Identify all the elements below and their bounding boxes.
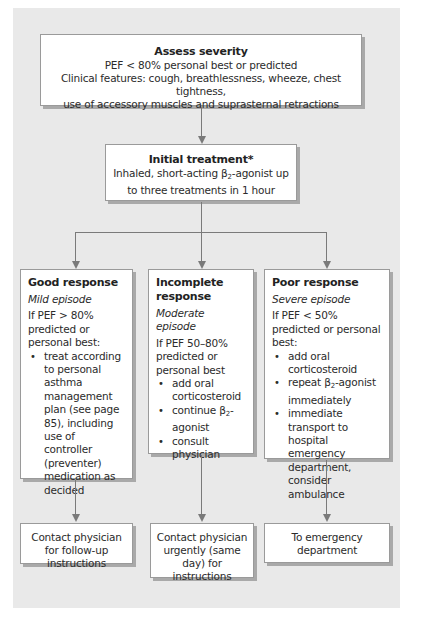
poor-response-action: add oral corticosteroid bbox=[272, 350, 383, 377]
incomplete-response-action: add oral corticosteroid bbox=[156, 377, 247, 404]
incomplete-response-actions: add oral corticosteroid continue β2-agon… bbox=[156, 377, 247, 461]
incomplete-response-condition: If PEF 50–80% predicted or personal best bbox=[156, 337, 247, 377]
incomplete-outcome-box: Contact physician urgently (same day) fo… bbox=[150, 523, 254, 578]
poor-response-actions: add oral corticosteroid repeat β2-agonis… bbox=[272, 350, 383, 501]
incomplete-response-action: continue β2-agonist bbox=[156, 404, 247, 435]
good-response-box: Good response Mild episode If PEF > 80% … bbox=[20, 269, 133, 479]
good-response-title: Good response bbox=[28, 276, 126, 290]
action-text: repeat β bbox=[288, 376, 331, 388]
good-response-action: treat according to personal asthma manag… bbox=[28, 350, 126, 497]
poor-response-subtitle: Severe episode bbox=[272, 293, 383, 306]
arrow-down-icon bbox=[198, 136, 206, 144]
assess-severity-title: Assess severity bbox=[41, 45, 361, 59]
connector-good-to-outcome bbox=[75, 480, 76, 515]
incomplete-response-title: Incomplete response bbox=[156, 276, 247, 304]
incomplete-outcome-text: Contact physician urgently (same day) fo… bbox=[155, 531, 249, 583]
poor-response-action: repeat β2-agonist immediately bbox=[272, 376, 383, 407]
connector-assess-to-initial bbox=[201, 107, 202, 137]
initial-line1-text-post: -agonist up bbox=[232, 167, 289, 179]
poor-response-condition: If PEF < 50% predicted or personal best: bbox=[272, 309, 383, 349]
arrow-down-icon bbox=[323, 514, 331, 522]
poor-response-title: Poor response bbox=[272, 276, 383, 290]
branch-left-line bbox=[75, 232, 76, 262]
good-outcome-box: Contact physician for follow-up instruct… bbox=[20, 523, 133, 564]
arrow-down-icon bbox=[198, 261, 206, 269]
good-response-subtitle: Mild episode bbox=[28, 293, 126, 306]
branch-right-line bbox=[326, 232, 327, 262]
assess-pef-criterion: PEF < 80% personal best or predicted bbox=[41, 59, 361, 72]
good-response-condition: If PEF > 80% predicted or personal best: bbox=[28, 309, 126, 349]
good-outcome-text: Contact physician for follow-up instruct… bbox=[25, 531, 128, 570]
initial-line1-text: Inhaled, short-acting β bbox=[113, 167, 227, 179]
initial-treatment-line2: to three treatments in 1 hour bbox=[106, 184, 296, 197]
arrow-down-icon bbox=[72, 261, 80, 269]
poor-response-box: Poor response Severe episode If PEF < 50… bbox=[264, 269, 390, 459]
good-response-actions: treat according to personal asthma manag… bbox=[28, 350, 126, 497]
connector-poor-to-outcome bbox=[326, 460, 327, 515]
arrow-down-icon bbox=[323, 261, 331, 269]
assess-clinical-features: Clinical features: cough, breathlessness… bbox=[41, 72, 361, 98]
incomplete-response-box: Incomplete response Moderate episode If … bbox=[148, 269, 254, 454]
poor-outcome-text: To emergency department bbox=[287, 531, 367, 557]
initial-treatment-title: Initial treatment* bbox=[106, 153, 296, 167]
action-text: continue β bbox=[172, 404, 226, 416]
arrow-down-icon bbox=[72, 514, 80, 522]
initial-treatment-line1: Inhaled, short-acting β2-agonist up bbox=[106, 167, 296, 184]
poor-response-action: immediate transport to hospital emergenc… bbox=[272, 407, 383, 501]
assess-severity-box: Assess severity PEF < 80% personal best … bbox=[40, 34, 362, 106]
branch-horizontal-line bbox=[75, 232, 327, 233]
connector-incomplete-to-outcome bbox=[201, 455, 202, 515]
incomplete-response-subtitle: Moderate episode bbox=[156, 307, 247, 334]
arrow-down-icon bbox=[198, 514, 206, 522]
poor-outcome-box: To emergency department bbox=[264, 523, 390, 563]
initial-treatment-box: Initial treatment* Inhaled, short-acting… bbox=[105, 144, 297, 201]
